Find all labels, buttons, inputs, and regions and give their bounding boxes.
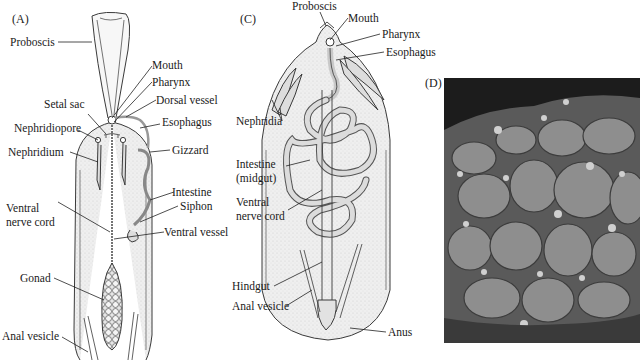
label-gonad-a: Gonad xyxy=(20,272,51,284)
sem-texture xyxy=(444,78,640,343)
panel-label-a: (A) xyxy=(12,12,29,27)
label-dorsal-vessel-a: Dorsal vessel xyxy=(156,94,218,106)
label-nephridium-a: Nephridium xyxy=(8,146,64,158)
label-proboscis-c: Proboscis xyxy=(292,0,337,12)
label-setal-sac-a: Setal sac xyxy=(44,98,85,110)
label-pharynx-c: Pharynx xyxy=(382,28,420,40)
label-nephridiopore-a: Nephridiopore xyxy=(14,122,81,134)
gonad-a xyxy=(102,263,123,350)
label-siphon-a: Siphon xyxy=(180,200,213,212)
label-intestine-c-2: (midgut) xyxy=(236,172,276,184)
label-proboscis-a: Proboscis xyxy=(10,36,55,48)
label-esophagus-c: Esophagus xyxy=(386,46,436,58)
label-ventral-nerve-cord-a-1: Ventral xyxy=(6,202,39,214)
label-nephridia-c: Nephridia xyxy=(236,115,282,127)
label-gizzard-a: Gizzard xyxy=(172,144,208,156)
label-anal-vesicle-a: Anal vesicle xyxy=(2,330,59,342)
worm-a xyxy=(74,12,152,360)
sem-micrograph-d xyxy=(444,78,640,343)
label-intestine-a: Intestine xyxy=(172,186,212,198)
label-ventral-nerve-cord-c-2: nerve cord xyxy=(236,210,285,222)
label-esophagus-a: Esophagus xyxy=(162,116,212,128)
label-hindgut-c: Hindgut xyxy=(232,280,270,292)
label-anus-c: Anus xyxy=(388,326,412,338)
label-anal-vesicle-c: Anal vesicle xyxy=(232,300,289,312)
label-pharynx-a: Pharynx xyxy=(152,76,190,88)
label-mouth-a: Mouth xyxy=(152,59,183,71)
label-ventral-nerve-cord-c-1: Ventral xyxy=(236,196,269,208)
label-ventral-vessel-a: Ventral vessel xyxy=(164,226,228,238)
panel-label-c: (C) xyxy=(240,12,256,27)
label-mouth-c: Mouth xyxy=(348,12,379,24)
panel-label-d: (D) xyxy=(425,76,442,91)
label-intestine-c-1: Intestine xyxy=(236,158,276,170)
worm-c xyxy=(262,22,390,340)
trunk-c xyxy=(262,25,390,340)
label-ventral-nerve-cord-a-2: nerve cord xyxy=(6,216,55,228)
